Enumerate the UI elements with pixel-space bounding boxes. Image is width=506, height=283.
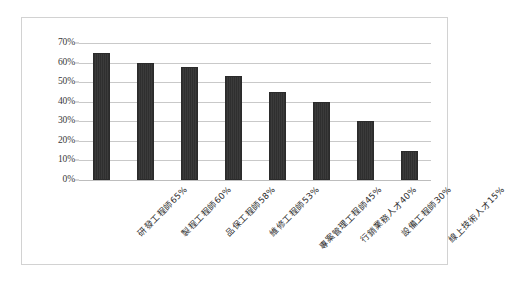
chart-frame: 70%60%50%40%30%20%10%0% 研發工程師65%製程工程師60%… (21, 17, 448, 265)
y-tick-mark (75, 62, 79, 63)
x-tick-label: 線上技術人才15% (445, 183, 506, 244)
x-tick-label: 專案管理工程師45% (316, 183, 384, 251)
gridline (79, 63, 431, 64)
bar (181, 67, 198, 181)
y-tick-mark (75, 101, 79, 102)
y-tick-label: 20% (42, 136, 75, 146)
y-tick-label: 70% (42, 38, 75, 48)
y-tick-label: 0% (42, 175, 75, 185)
bar (313, 102, 330, 180)
y-tick-mark (75, 43, 79, 44)
gridline (79, 82, 431, 83)
gridline (79, 141, 431, 142)
gridline (79, 102, 431, 103)
bar (401, 151, 418, 180)
y-tick-mark (75, 140, 79, 141)
bar (137, 63, 154, 180)
bar (269, 92, 286, 180)
y-tick-mark (75, 82, 79, 83)
plot-area (79, 43, 431, 180)
y-tick-mark (75, 160, 79, 161)
y-tick-label: 10% (42, 156, 75, 166)
gridline (79, 160, 431, 161)
y-tick-mark (75, 180, 79, 181)
x-axis: 研發工程師65%製程工程師60%品保工程師58%維修工程師53%專案管理工程師4… (79, 181, 431, 261)
y-axis: 70%60%50%40%30%20%10%0% (42, 43, 75, 180)
y-tick-label: 40% (42, 97, 75, 107)
gridline (79, 43, 431, 44)
gridline (79, 121, 431, 122)
bar (93, 53, 110, 180)
y-tick-label: 30% (42, 117, 75, 127)
y-tick-label: 50% (42, 77, 75, 87)
bar (357, 121, 374, 180)
bar (225, 76, 242, 180)
y-tick-label: 60% (42, 58, 75, 68)
y-tick-mark (75, 121, 79, 122)
